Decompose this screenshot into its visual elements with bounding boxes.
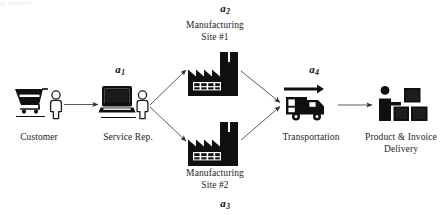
arc-label-a3: a3 [199, 197, 251, 209]
laptop-and-person-icon [100, 84, 152, 124]
delivery-truck-icon [284, 84, 338, 124]
factory-icon [188, 122, 242, 166]
node-label-transportation: Transportation [271, 132, 351, 144]
arc-label-a1: a1 [94, 63, 146, 75]
arc-label-a4: a4 [288, 63, 340, 75]
node-label-customer: Customer [3, 132, 75, 144]
factory-icon [188, 52, 242, 96]
arc-label-a2-sub: 2 [226, 7, 230, 16]
node-label-manufacturing-site-2: Manufacturing Site #2 [177, 168, 253, 191]
arc-label-a1-sub: 1 [121, 68, 125, 77]
arc-label-a3-sub: 3 [226, 202, 230, 211]
arc-label-a2: a2 [199, 2, 251, 14]
node-label-product-invoice-delivery: Product & Invoice Delivery [360, 132, 442, 155]
arc-label-a4-sub: 4 [315, 68, 319, 77]
shopping-cart-and-person-icon [12, 86, 68, 124]
node-label-service-rep: Service Rep. [91, 132, 165, 144]
node-label-manufacturing-site-1: Manufacturing Site #1 [177, 20, 253, 43]
arrow-service-rep-to-site-1 [150, 70, 186, 105]
arrow-site-1-to-transportation [241, 71, 280, 103]
person-with-boxes-icon [374, 84, 430, 124]
process-flow-diagram: an scenario [0, 0, 442, 215]
